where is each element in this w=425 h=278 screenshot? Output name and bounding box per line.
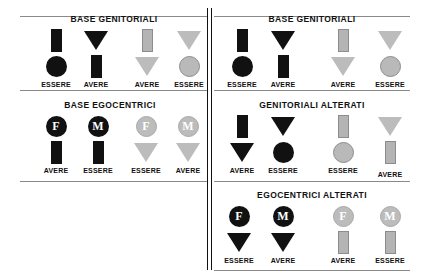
column-label: ESSERE <box>224 257 254 264</box>
panel-middle-left: BASE EGOCENTRICI F AVERE M ESSERE F ESSE… <box>20 100 208 176</box>
triangle-gray-icon <box>378 31 402 50</box>
shape-column: M ESSERE <box>368 203 412 264</box>
badge-female-black-icon: F <box>229 206 250 227</box>
shape-column: ESSERE <box>368 27 412 88</box>
column-label: ESSERE <box>83 167 113 174</box>
panel-columns: F AVERE M ESSERE F ESSERE M AVERE <box>20 113 208 185</box>
column-label: AVERE <box>44 167 69 174</box>
shape-slot-bottom <box>166 139 210 165</box>
column-label: ESSERE <box>131 167 161 174</box>
shape-slot-top <box>368 27 412 53</box>
shape-slot-bottom <box>261 53 305 79</box>
figure-canvas: BASE GENITORIALI ESSERE AVERE AVERE ESSE… <box>0 0 425 278</box>
shape-slot-bottom <box>321 139 365 165</box>
shape-slot-top <box>34 27 78 53</box>
rect-black-icon <box>51 29 62 52</box>
column-label: ESSERE <box>328 167 358 174</box>
shape-column: ESSERE <box>220 27 264 88</box>
panel-title: BASE EGOCENTRICI <box>16 100 204 110</box>
shape-column: AVERE <box>321 27 365 88</box>
circle-black-icon <box>232 56 253 77</box>
column-label: AVERE <box>176 167 201 174</box>
shape-column: M AVERE <box>261 203 305 264</box>
rect-gray-icon <box>338 29 349 52</box>
shape-slot-top <box>220 113 264 139</box>
circle-black-icon <box>273 142 294 163</box>
triangle-gray-icon <box>177 31 201 50</box>
shape-slot-top: F <box>124 113 168 139</box>
shape-column: ESSERE <box>34 27 78 88</box>
column-label: ESSERE <box>375 257 405 264</box>
shape-slot-top: M <box>368 203 412 229</box>
shape-slot-bottom <box>261 229 305 255</box>
shape-slot-bottom <box>124 139 168 165</box>
panel-top-right: BASE GENITORIALI ESSERE AVERE AVERE ESSE… <box>214 14 410 90</box>
column-label: ESSERE <box>174 81 204 88</box>
triangle-black-icon <box>271 31 295 50</box>
column-label: ESSERE <box>375 81 405 88</box>
triangle-black-icon <box>271 117 295 136</box>
circle-black-icon <box>46 56 67 77</box>
shape-column: AVERE <box>220 113 264 174</box>
badge-male-black-icon: M <box>273 206 294 227</box>
rect-black-icon <box>237 115 248 138</box>
shape-column: F ESSERE <box>124 113 168 174</box>
column-label: AVERE <box>331 257 356 264</box>
rect-gray-icon <box>142 29 153 52</box>
panel-title: BASE GENITORIALI <box>20 14 208 24</box>
shape-slot-top <box>321 27 365 53</box>
shape-slot-bottom <box>220 139 264 165</box>
triangle-black-icon <box>84 31 108 50</box>
badge-male-black-icon: M <box>88 116 109 137</box>
panel-middle-right: GENITORIALI ALTERATI AVERE ESSERE ESSERE <box>214 100 410 176</box>
shape-column: AVERE <box>74 27 118 88</box>
circle-gray-icon <box>333 142 354 163</box>
column-label: AVERE <box>331 81 356 88</box>
shape-column: AVERE <box>125 27 169 88</box>
shape-slot-top <box>74 27 118 53</box>
shape-slot-top <box>261 27 305 53</box>
shape-slot-top <box>167 27 211 53</box>
shape-column: M ESSERE <box>76 113 120 174</box>
shape-slot-bottom <box>74 53 118 79</box>
shape-slot-top: F <box>34 113 78 139</box>
badge-male-gray-icon: M <box>380 206 401 227</box>
triangle-black-icon <box>227 233 251 252</box>
rect-black-icon <box>93 141 104 164</box>
rect-black-icon <box>51 141 62 164</box>
panel-columns: ESSERE AVERE AVERE ESSERE <box>20 27 208 99</box>
panel-columns: ESSERE AVERE AVERE ESSERE <box>214 27 410 99</box>
panel-top-left: BASE GENITORIALI ESSERE AVERE AVERE ESSE… <box>20 14 208 90</box>
shape-slot-bottom <box>368 139 412 165</box>
badge-female-gray-icon: F <box>136 116 157 137</box>
rect-black-icon <box>278 55 289 78</box>
shape-slot-top: M <box>261 203 305 229</box>
column-label: AVERE <box>271 257 296 264</box>
shape-slot-bottom <box>368 229 412 255</box>
shape-column: AVERE <box>368 113 412 178</box>
shape-slot-bottom <box>34 53 78 79</box>
shape-slot-top <box>220 27 264 53</box>
shape-slot-bottom <box>167 53 211 79</box>
triangle-gray-icon <box>378 117 402 136</box>
triangle-gray-icon <box>176 143 200 162</box>
shape-slot-top <box>368 113 412 139</box>
column-label: AVERE <box>230 167 255 174</box>
shape-slot-bottom <box>220 53 264 79</box>
rect-gray-icon <box>385 231 396 254</box>
panel-columns: F ESSERE M AVERE F AVERE M ESSERE <box>214 203 410 275</box>
shape-column: ESSERE <box>167 27 211 88</box>
column-label: AVERE <box>378 171 403 178</box>
circle-gray-icon <box>179 56 200 77</box>
panel-title: BASE GENITORIALI <box>214 14 410 24</box>
shape-slot-bottom <box>321 229 365 255</box>
badge-female-gray-icon: F <box>333 206 354 227</box>
rect-gray-icon <box>338 231 349 254</box>
shape-slot-bottom <box>76 139 120 165</box>
shape-slot-top: F <box>217 203 261 229</box>
shape-slot-bottom <box>34 139 78 165</box>
column-label: ESSERE <box>227 81 257 88</box>
shape-column: F AVERE <box>321 203 365 264</box>
panel-bottom-right: EGOCENTRICI ALTERATI F ESSERE M AVERE F … <box>214 190 410 266</box>
shape-slot-bottom <box>217 229 261 255</box>
